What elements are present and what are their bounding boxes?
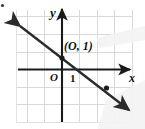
point-second xyxy=(104,85,109,90)
origin-label: O xyxy=(50,72,58,83)
x-tick-label-one: 1 xyxy=(70,73,76,84)
corner-speck xyxy=(1,4,4,7)
x-axis-label: x xyxy=(129,72,135,84)
coordinate-plane-figure: y x O 1 (O, 1) xyxy=(0,0,145,129)
y-axis-label: y xyxy=(50,6,56,19)
intercept-point-label: (O, 1) xyxy=(64,40,93,52)
point-y-intercept xyxy=(59,55,64,60)
graph-canvas xyxy=(0,0,145,129)
